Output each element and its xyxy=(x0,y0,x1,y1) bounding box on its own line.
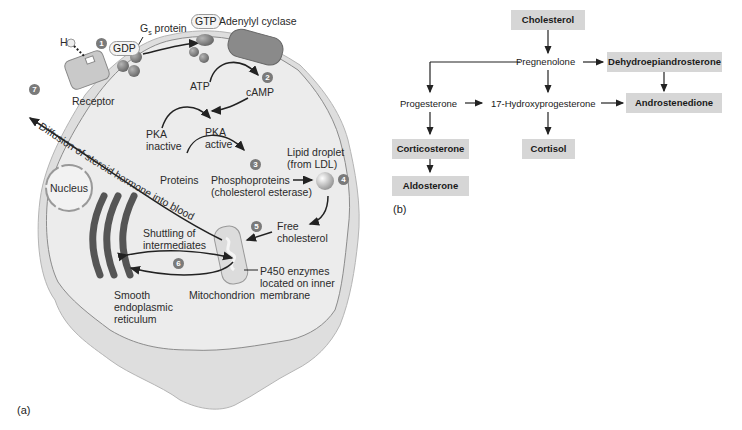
gdp-label: GDP xyxy=(109,41,140,56)
panel-a-tag: (a) xyxy=(17,404,30,416)
step-1-badge: 1 xyxy=(96,38,107,49)
adenylyl-cyclase-label: Adenylyl cyclase xyxy=(219,15,297,27)
lipid-droplet-icon xyxy=(316,172,334,190)
hormone-label: H xyxy=(60,36,68,48)
node-pregnenolone: Pregnenolone xyxy=(516,56,575,67)
node-aldosterone: Aldosterone xyxy=(392,176,469,196)
node-cortisol: Cortisol xyxy=(522,139,575,159)
step-6-badge: 6 xyxy=(173,258,184,269)
receptor-label: Receptor xyxy=(72,95,115,107)
node-dehydroepiandrosterone: Dehydroepiandrosterone xyxy=(607,52,722,72)
camp-label: cAMP xyxy=(246,86,274,98)
smooth-er-label: Smoothendoplasmicreticulum xyxy=(114,289,173,325)
phosphoproteins-label: Phosphoproteins(cholesterol esterase) xyxy=(211,174,312,198)
lipid-droplet-label: Lipid droplet(from LDL) xyxy=(287,146,344,170)
atp-label: ATP xyxy=(190,80,210,92)
node-androstenedione: Androstenedione xyxy=(626,93,722,113)
p450-enzymes-label: P450 enzymeslocated on innermembrane xyxy=(260,265,335,301)
step-3-badge: 3 xyxy=(250,159,261,170)
shuttling-label: Shuttling ofintermediates xyxy=(143,227,206,251)
step-4-badge: 4 xyxy=(338,174,349,185)
mitochondrion-label: Mitochondrion xyxy=(189,289,255,301)
step-2-badge: 2 xyxy=(262,72,273,83)
gtp-label: GTP xyxy=(191,14,221,29)
nucleus-label: Nucleus xyxy=(46,182,92,194)
proteins-label: Proteins xyxy=(160,174,199,186)
node-17-hydroxyprogesterone: 17-Hydroxyprogesterone xyxy=(491,98,596,109)
node-progesterone: Progesterone xyxy=(400,98,457,109)
gs-protein-label: Gs protein xyxy=(140,22,187,39)
pka-active-label: PKAactive xyxy=(205,126,232,150)
pka-inactive-label: PKAinactive xyxy=(146,128,182,152)
node-corticosterone: Corticosterone xyxy=(392,139,469,159)
panel-b-tag: (b) xyxy=(393,203,406,215)
node-cholesterol: Cholesterol xyxy=(511,10,585,30)
step-7-badge: 7 xyxy=(29,84,40,95)
free-cholesterol-label: Freecholesterol xyxy=(277,220,328,244)
step-5-badge: 5 xyxy=(251,221,262,232)
